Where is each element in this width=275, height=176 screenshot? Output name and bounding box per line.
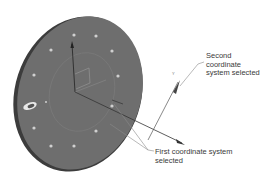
second-coordinate-system [148, 80, 180, 140]
second-coordinate-system-label: Second coordinate system selected [206, 52, 260, 78]
second-axis-letter: Y [172, 71, 175, 76]
first-coordinate-system-label: First coordinate system selected [155, 148, 233, 165]
disc-face [0, 0, 162, 176]
disc-diagram [0, 0, 275, 176]
